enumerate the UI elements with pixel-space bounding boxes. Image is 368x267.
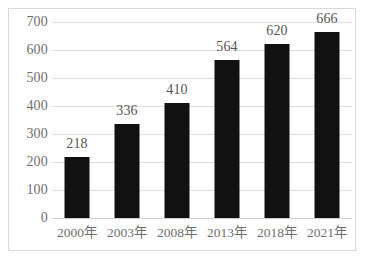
caption-strip xyxy=(18,258,350,267)
bar-slot: 564 xyxy=(202,22,252,218)
y-tick-label: 700 xyxy=(4,15,48,29)
bar-value-label: 564 xyxy=(216,40,238,54)
bar-value-label: 410 xyxy=(166,83,188,97)
bar[interactable] xyxy=(165,103,190,218)
y-tick-label: 100 xyxy=(4,183,48,197)
x-axis: 2000年2003年2008年2013年2018年2021年 xyxy=(52,225,352,247)
bar[interactable] xyxy=(115,124,140,218)
bar-slot: 620 xyxy=(252,22,302,218)
gridline-0 xyxy=(52,218,352,219)
y-axis: 7006005004003002001000 xyxy=(0,22,48,218)
bar[interactable] xyxy=(215,60,240,218)
bar-slot: 218 xyxy=(52,22,102,218)
x-tick-label: 2000年 xyxy=(52,225,102,241)
bar-slot: 410 xyxy=(152,22,202,218)
x-tick-label: 2013年 xyxy=(202,225,252,241)
y-tick-label: 200 xyxy=(4,155,48,169)
y-tick-label: 400 xyxy=(4,99,48,113)
bar-chart-figure: 7006005004003002001000 21833641056462066… xyxy=(0,0,368,267)
y-tick-label: 600 xyxy=(4,43,48,57)
bar-slot: 666 xyxy=(302,22,352,218)
bar-value-label: 218 xyxy=(66,137,88,151)
bar-value-label: 336 xyxy=(116,104,138,118)
x-tick-label: 2008年 xyxy=(152,225,202,241)
plot-area: 218336410564620666 xyxy=(52,22,352,218)
bar-value-label: 666 xyxy=(316,12,338,26)
bar-slot: 336 xyxy=(102,22,152,218)
x-tick-label: 2021年 xyxy=(302,225,352,241)
y-tick-label: 500 xyxy=(4,71,48,85)
bar-value-label: 620 xyxy=(266,24,288,38)
x-tick-label: 2003年 xyxy=(102,225,152,241)
x-tick-label: 2018年 xyxy=(252,225,302,241)
bar[interactable] xyxy=(65,157,90,218)
bar[interactable] xyxy=(315,32,340,218)
y-tick-label: 300 xyxy=(4,127,48,141)
y-tick-label: 0 xyxy=(4,211,48,225)
bar[interactable] xyxy=(265,44,290,218)
